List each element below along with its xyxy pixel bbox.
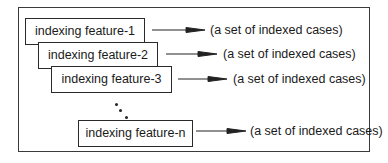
- arrow-icon: [166, 52, 217, 57]
- arrow-icon: [152, 28, 205, 33]
- target-label-1: (a set of indexed cases): [210, 23, 343, 37]
- target-label-3: (a set of indexed cases): [233, 72, 366, 86]
- arrow-icon: [178, 77, 227, 82]
- arrow-icon: [196, 129, 246, 134]
- target-label-2: (a set of indexed cases): [223, 47, 356, 61]
- target-label-n: (a set of indexed cases): [250, 124, 383, 138]
